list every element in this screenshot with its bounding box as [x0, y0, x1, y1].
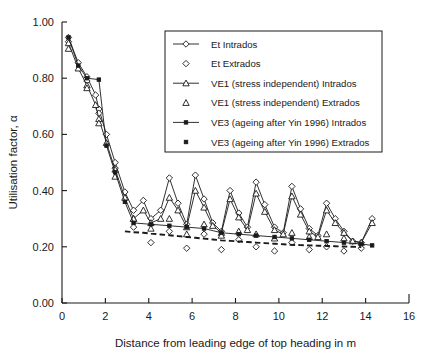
legend-box	[165, 31, 382, 152]
data-point-marker-square	[149, 223, 152, 226]
data-point-marker-square	[220, 231, 223, 234]
x-tick-label: 14	[360, 310, 372, 322]
data-point-marker-square	[370, 244, 373, 247]
data-point-marker-square	[237, 232, 240, 235]
data-point-marker-square	[273, 235, 276, 238]
data-point-marker-square	[132, 221, 135, 224]
data-point-marker-square	[105, 144, 108, 147]
y-tick-label: 0.00	[33, 297, 54, 309]
legend-entry: VE3 (ageing after Yin 1996) Extrados	[184, 137, 369, 148]
chart-figure: 0.000.200.400.600.801.000246810121416 Et…	[0, 0, 427, 359]
data-point-marker-square	[85, 76, 88, 79]
data-point-marker-square	[202, 227, 205, 230]
data-point-marker-square	[184, 140, 187, 143]
x-tick-label: 4	[146, 310, 152, 322]
data-point-marker-square	[342, 241, 345, 244]
legend-entry-label: VE3 (ageing after Yin 1996) Extrados	[211, 137, 370, 148]
x-tick-label: 16	[403, 310, 415, 322]
y-tick-label: 0.40	[33, 185, 54, 197]
y-axis-title: Utilisation factor, α	[7, 115, 19, 210]
data-point-marker-square	[184, 121, 187, 124]
x-axis-title: Distance from leading edge of top headin…	[115, 337, 356, 349]
data-point-marker-square	[67, 36, 70, 39]
data-point-marker-square	[113, 171, 116, 174]
data-point-marker-square	[185, 225, 188, 228]
legend-entry-label: VE1 (stress independent) Intrados	[211, 78, 357, 89]
x-tick-label: 8	[232, 310, 238, 322]
data-point-marker-square	[325, 239, 328, 242]
chart-legend: Et IntradosEt ExtradosVE1 (stress indepe…	[165, 31, 382, 152]
y-tick-label: 1.00	[33, 16, 54, 28]
data-point-marker-square	[97, 78, 100, 81]
data-point-marker-square	[123, 200, 126, 203]
data-point-marker-square	[290, 237, 293, 240]
y-tick-label: 0.80	[33, 72, 54, 84]
legend-entry-label: VE1 (stress independent) Extrados	[211, 97, 360, 108]
x-tick-label: 2	[102, 310, 108, 322]
x-tick-label: 0	[59, 310, 65, 322]
data-point-marker-square	[360, 242, 363, 245]
legend-entry-label: Et Extrados	[211, 58, 261, 69]
y-tick-label: 0.60	[33, 128, 54, 140]
x-tick-label: 6	[189, 310, 195, 322]
y-tick-label: 0.20	[33, 241, 54, 253]
x-tick-label: 12	[316, 310, 328, 322]
legend-entry-label: Et Intrados	[211, 39, 258, 50]
utilisation-factor-line-chart: 0.000.200.400.600.801.000246810121416 Et…	[0, 0, 427, 359]
legend-entry-label: VE3 (ageing after Yin 1996) Intrados	[211, 117, 366, 128]
data-point-marker-square	[77, 64, 80, 67]
x-tick-label: 10	[273, 310, 285, 322]
data-point-marker-square	[254, 234, 257, 237]
data-point-marker-square	[168, 224, 171, 227]
data-point-marker-square	[308, 238, 311, 241]
